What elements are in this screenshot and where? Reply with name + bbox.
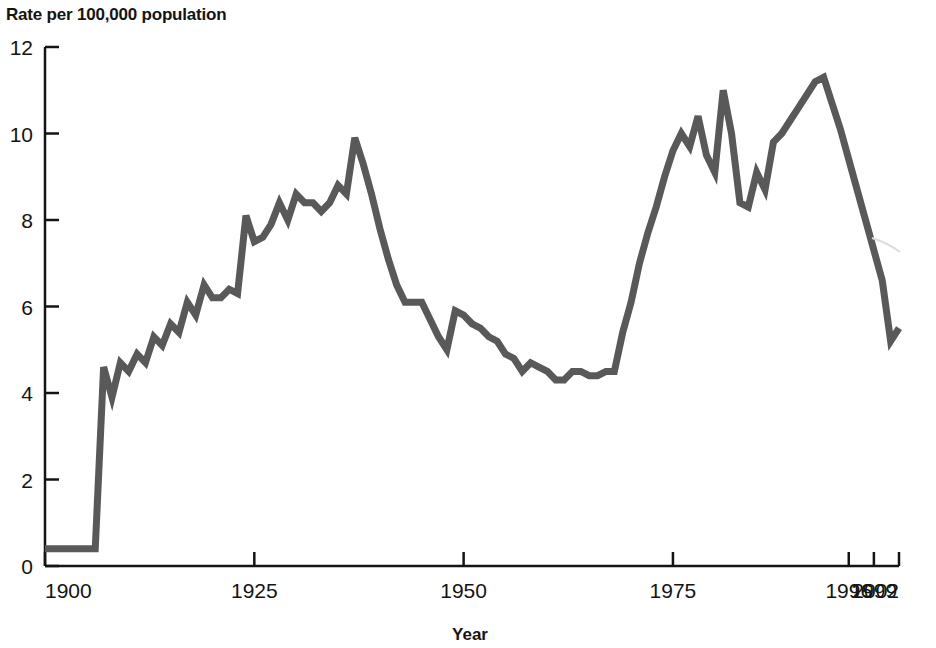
y-tick-label: 0 [21, 555, 33, 578]
y-axis-ticks: 024681012 [10, 36, 59, 578]
y-tick-label: 6 [21, 296, 33, 319]
y-tick-label: 2 [21, 469, 33, 492]
x-tick-label: 1925 [231, 579, 278, 602]
y-tick-label: 4 [21, 382, 33, 405]
chart-axes [45, 47, 899, 566]
x-axis-label: Year [452, 625, 488, 644]
x-axis-ticks: 1900192519501975199619992002 [45, 552, 899, 602]
y-tick-label: 12 [10, 36, 33, 59]
x-tick-label: 1950 [440, 579, 487, 602]
series-group [45, 77, 899, 548]
chart-container: Rate per 100,000 population 024681012 19… [0, 0, 936, 648]
y-tick-label: 8 [21, 209, 33, 232]
x-tick-label: 1900 [45, 579, 92, 602]
chart-title: Rate per 100,000 population [6, 5, 226, 24]
y-tick-label: 10 [10, 123, 33, 146]
x-tick-label: 2002 [852, 579, 899, 602]
x-tick-label: 1975 [650, 579, 697, 602]
line-chart: Rate per 100,000 population 024681012 19… [0, 0, 936, 648]
data-line-rate [45, 77, 899, 548]
